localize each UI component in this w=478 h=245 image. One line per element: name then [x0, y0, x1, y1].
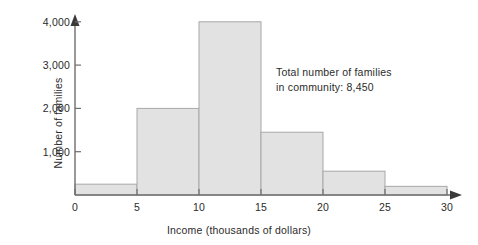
histogram-chart: 4,000 3,000 2,000 1,000 0 5 10 15 20 25 … [0, 0, 478, 245]
bar-15-20 [261, 132, 323, 195]
chart-annotation: Total number of families in community: 8… [276, 65, 392, 95]
y-tick-label-1000: 1,000 [30, 146, 70, 158]
bar-series [75, 22, 447, 195]
x-axis-arrow-icon [450, 191, 462, 200]
y-tick-label-2000: 2,000 [30, 102, 70, 114]
x-tick-label-25: 25 [379, 201, 391, 213]
bar-0-5 [75, 184, 137, 195]
x-tick-label-10: 10 [193, 201, 205, 213]
x-axis-title: Income (thousands of dollars) [0, 224, 478, 236]
x-tick-label-15: 15 [255, 201, 267, 213]
x-tick-label-5: 5 [134, 201, 140, 213]
x-tick-label-20: 20 [317, 201, 329, 213]
x-tick-label-0: 0 [72, 201, 78, 213]
bar-5-10 [137, 108, 199, 195]
bar-10-15 [199, 22, 261, 195]
y-axis-title: Number of families [52, 77, 64, 168]
annotation-line-1: Total number of families [276, 65, 392, 80]
x-tick-label-30: 30 [441, 201, 453, 213]
y-tick-label-3000: 3,000 [30, 59, 70, 71]
bar-20-25 [323, 171, 385, 195]
y-axis-arrow-icon [71, 14, 80, 26]
bar-25-30 [385, 186, 447, 195]
annotation-line-2: in community: 8,450 [276, 80, 392, 95]
y-axis [71, 14, 82, 195]
y-tick-label-4000: 4,000 [30, 16, 70, 28]
